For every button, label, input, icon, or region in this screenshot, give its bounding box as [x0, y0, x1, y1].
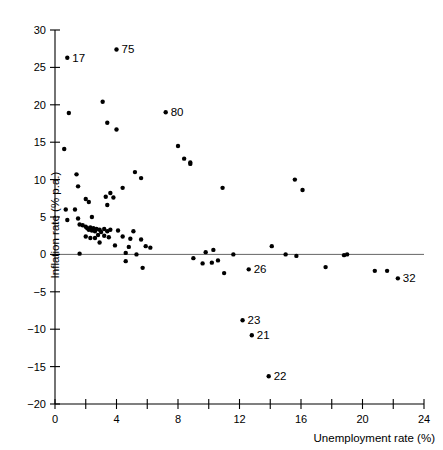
data-point [203, 250, 207, 254]
data-point [116, 228, 120, 232]
axes [55, 30, 424, 404]
data-point [210, 260, 214, 264]
data-point [188, 162, 192, 166]
data-point [240, 318, 244, 322]
data-point [220, 186, 224, 190]
svg-text:30: 30 [34, 24, 46, 36]
data-point [128, 236, 132, 240]
data-point [90, 215, 94, 219]
data-point [114, 47, 118, 51]
data-point [385, 269, 389, 273]
data-point [62, 147, 66, 151]
data-point [105, 203, 109, 207]
data-point-label: 80 [171, 106, 184, 118]
data-point-label: 26 [254, 263, 267, 275]
data-point [131, 229, 135, 233]
data-point [216, 258, 220, 262]
data-point [140, 266, 144, 270]
data-point [105, 121, 109, 125]
data-point [76, 184, 80, 188]
y-axis-title: Inflation rate (% p.a.) [49, 172, 61, 279]
svg-text:25: 25 [34, 61, 46, 73]
data-point [108, 191, 112, 195]
data-point [74, 172, 78, 176]
data-point [96, 233, 100, 237]
x-axis-title: Unemployment rate (%) [314, 432, 435, 444]
data-point [127, 245, 131, 249]
scatter-plot-figure: −20−15−10−505101520253004812162024 17758… [0, 0, 443, 450]
data-point [222, 271, 226, 275]
data-point [345, 252, 349, 256]
svg-text:−20: −20 [27, 398, 46, 410]
data-point [120, 186, 124, 190]
svg-text:0: 0 [40, 248, 46, 260]
data-point [120, 234, 124, 238]
data-point [76, 216, 80, 220]
svg-text:16: 16 [295, 413, 307, 425]
data-point [88, 236, 92, 240]
data-point [114, 127, 118, 131]
data-point [182, 156, 186, 160]
data-point [108, 228, 112, 232]
svg-text:4: 4 [113, 413, 119, 425]
svg-text:20: 20 [34, 99, 46, 111]
data-point [231, 252, 235, 256]
data-point [104, 195, 108, 199]
svg-text:12: 12 [233, 413, 245, 425]
data-points [62, 47, 400, 378]
data-point [64, 207, 68, 211]
data-point [102, 234, 106, 238]
data-point [65, 218, 69, 222]
data-point-label: 21 [257, 329, 270, 341]
data-point [139, 237, 143, 241]
data-point [111, 195, 115, 199]
data-point-label: 32 [403, 272, 416, 284]
data-point-label: 22 [274, 370, 287, 382]
svg-text:−5: −5 [33, 286, 46, 298]
data-point [100, 100, 104, 104]
data-point [300, 188, 304, 192]
svg-text:15: 15 [34, 136, 46, 148]
data-point [293, 177, 297, 181]
data-point [84, 234, 88, 238]
svg-text:−15: −15 [27, 361, 46, 373]
data-point [283, 252, 287, 256]
svg-text:24: 24 [418, 413, 430, 425]
data-point [73, 207, 77, 211]
data-point [164, 110, 168, 114]
data-point [77, 251, 81, 255]
data-point [211, 248, 215, 252]
data-point [67, 111, 71, 115]
data-point [97, 240, 101, 244]
data-point [200, 261, 204, 265]
data-point [65, 55, 69, 59]
data-point [323, 265, 327, 269]
data-point [270, 244, 274, 248]
svg-text:8: 8 [175, 413, 181, 425]
svg-text:20: 20 [356, 413, 368, 425]
data-point [113, 243, 117, 247]
data-point [396, 276, 400, 280]
plot-canvas: −20−15−10−505101520253004812162024 17758… [0, 0, 443, 450]
data-point [191, 256, 195, 260]
svg-text:−10: −10 [27, 323, 46, 335]
data-point-label: 17 [72, 52, 85, 64]
data-point [134, 252, 138, 256]
data-point [124, 259, 128, 263]
data-point [107, 235, 111, 239]
data-point-labels: 1775802321223226 [72, 43, 415, 382]
data-point [144, 244, 148, 248]
data-point-label: 75 [122, 43, 135, 55]
axis-ticks [50, 30, 424, 409]
data-point [139, 176, 143, 180]
data-point-label: 23 [248, 314, 261, 326]
data-point [133, 170, 137, 174]
data-point [294, 254, 298, 258]
data-point [247, 267, 251, 271]
data-point [250, 333, 254, 337]
svg-text:10: 10 [34, 174, 46, 186]
svg-text:0: 0 [52, 413, 58, 425]
data-point [373, 269, 377, 273]
data-point [124, 251, 128, 255]
data-point [87, 200, 91, 204]
